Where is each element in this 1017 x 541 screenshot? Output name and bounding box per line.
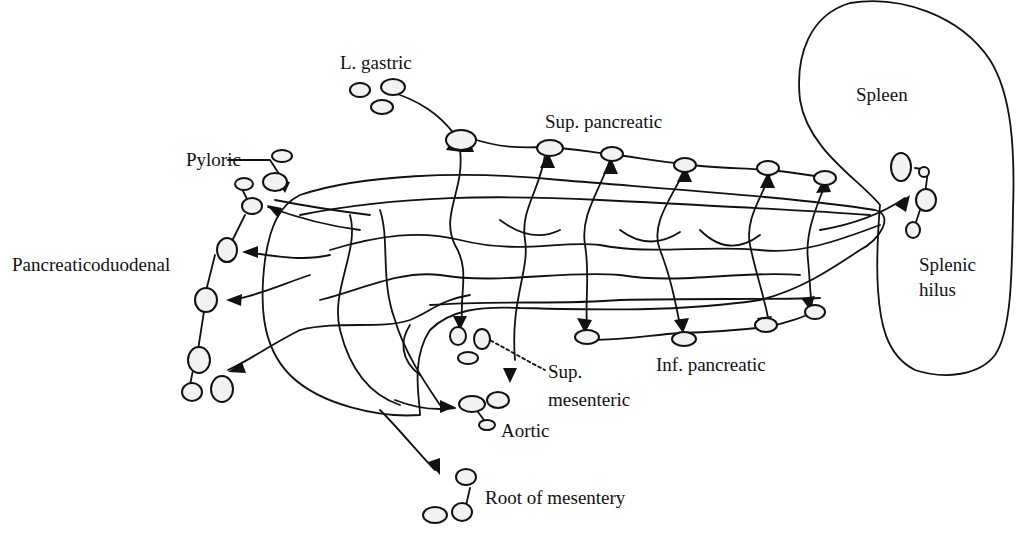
label-pancreaticoduodenal: Pancreaticoduodenal	[12, 254, 170, 275]
node-sup-pancreatic	[601, 147, 623, 161]
node-splenic-hilus	[891, 153, 911, 181]
label-l-gastric: L. gastric	[340, 52, 412, 73]
node-sup-mesenteric	[458, 352, 478, 364]
spleen-outline	[799, 1, 1013, 375]
label-sup-mesenteric-line2: mesenteric	[548, 389, 630, 410]
node-pancreaticoduodenal	[211, 376, 233, 402]
node-splenic-hilus	[919, 167, 929, 177]
label-splenic-hilus-line2: hilus	[919, 279, 956, 300]
node-sup-pancreatic	[814, 171, 836, 185]
node-aortic	[479, 420, 495, 430]
node-root-of-mesentery	[423, 507, 447, 523]
diagram-canvas: L. gastric Sup. pancreatic Spleen Pylori…	[0, 0, 1017, 541]
label-sup-mesenteric-line1: Sup.	[548, 361, 582, 382]
label-root-of-mesentery: Root of mesentery	[485, 487, 625, 508]
node-pancreaticoduodenal	[182, 383, 202, 401]
node-pancreaticoduodenal	[188, 347, 210, 373]
node-splenic-hilus	[906, 222, 920, 238]
label-sup-pancreatic: Sup. pancreatic	[545, 111, 662, 132]
node-sup-pancreatic	[674, 158, 696, 172]
node-l-gastric	[350, 83, 370, 97]
node-inf-pancreatic	[805, 305, 825, 319]
node-root-of-mesentery	[452, 503, 472, 521]
node-pyloric	[272, 150, 292, 162]
label-splenic-hilus-line1: Splenic	[919, 254, 976, 275]
node-l-gastric	[381, 79, 405, 95]
label-aortic: Aortic	[501, 420, 550, 441]
node-pancreaticoduodenal	[195, 288, 217, 312]
label-spleen: Spleen	[856, 84, 908, 105]
node-sup-pancreatic	[757, 161, 779, 175]
arrowheads	[226, 135, 910, 475]
node-aortic	[459, 396, 485, 412]
node-sup-pancreatic	[537, 140, 563, 156]
node-root-of-mesentery	[456, 469, 476, 485]
node-aortic	[487, 392, 509, 408]
node-pyloric	[242, 198, 262, 214]
label-pyloric: Pyloric	[186, 149, 241, 170]
node-inf-pancreatic	[575, 330, 599, 344]
node-sup-pancreatic	[446, 130, 476, 150]
node-sup-mesenteric	[474, 329, 490, 349]
lymphatic-vessel-network	[300, 150, 880, 405]
node-splenic-hilus	[916, 189, 936, 211]
node-inf-pancreatic	[672, 332, 696, 346]
node-l-gastric	[371, 100, 393, 114]
lymph-nodes	[182, 79, 936, 523]
node-pyloric	[263, 173, 287, 191]
node-pancreaticoduodenal	[217, 238, 237, 262]
node-inf-pancreatic	[755, 318, 777, 332]
node-sup-mesenteric	[450, 327, 466, 345]
label-inf-pancreatic: Inf. pancreatic	[656, 354, 766, 375]
node-pyloric	[235, 178, 253, 190]
